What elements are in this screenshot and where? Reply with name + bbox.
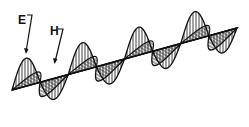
e-arrowhead-icon — [24, 48, 29, 54]
em-wave-diagram: E H — [0, 0, 249, 127]
e-field-lobe — [12, 58, 40, 90]
e-field-lobe — [68, 43, 96, 75]
e-field-lobe — [181, 12, 209, 44]
propagation-axis — [12, 28, 237, 90]
h-arrowhead-icon — [53, 58, 58, 64]
e-field-lobe — [125, 27, 153, 59]
h-field-label: H — [50, 24, 59, 38]
e-field-label: E — [18, 13, 26, 27]
e-leader-arrow — [26, 15, 32, 52]
wave-group — [12, 12, 237, 100]
